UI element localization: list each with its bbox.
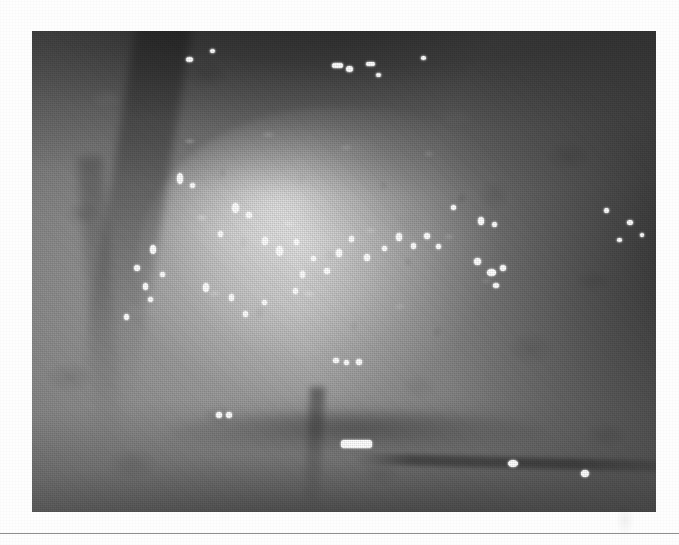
- specular-highlight: [143, 283, 148, 290]
- specular-highlight-group: [32, 31, 656, 512]
- specular-highlight: [210, 49, 215, 53]
- specular-highlight: [177, 173, 183, 184]
- specular-highlight: [344, 360, 349, 365]
- specular-highlight: [640, 233, 644, 237]
- specular-highlight: [451, 205, 456, 210]
- specular-highlight: [492, 222, 497, 227]
- specular-highlight: [436, 244, 441, 249]
- specular-highlight: [364, 254, 370, 261]
- page-divider-rule: [0, 533, 679, 534]
- specular-highlight: [581, 470, 589, 477]
- specular-highlight: [216, 412, 222, 418]
- specular-highlight: [617, 238, 622, 242]
- specular-highlight: [311, 256, 316, 261]
- specular-highlight: [424, 233, 430, 239]
- specular-highlight: [487, 269, 496, 276]
- specular-highlight: [246, 212, 252, 218]
- specular-highlight: [229, 294, 234, 301]
- specular-highlight: [604, 208, 609, 213]
- specular-highlight: [500, 265, 506, 271]
- specular-highlight: [218, 231, 223, 237]
- specular-highlight: [474, 258, 481, 265]
- specular-highlight: [276, 246, 283, 256]
- specular-highlight: [382, 246, 387, 251]
- specular-highlight: [124, 314, 129, 320]
- specular-highlight: [493, 283, 499, 288]
- specular-highlight: [333, 358, 339, 363]
- specular-highlight: [411, 243, 416, 249]
- specular-highlight: [148, 297, 153, 302]
- specular-highlight: [262, 237, 268, 245]
- specular-highlight: [366, 62, 375, 66]
- specular-highlight: [294, 239, 299, 245]
- specular-highlight: [160, 272, 165, 277]
- specular-highlight: [232, 203, 239, 213]
- specular-highlight: [300, 271, 305, 278]
- clinical-photograph: [32, 31, 656, 512]
- specular-highlight: [203, 283, 209, 292]
- specular-highlight: [346, 66, 353, 72]
- specular-highlight: [349, 236, 354, 242]
- specular-highlight: [478, 217, 484, 225]
- specular-highlight: [262, 300, 267, 305]
- specular-highlight: [332, 63, 343, 68]
- specular-highlight: [376, 73, 381, 77]
- specular-highlight: [396, 233, 402, 241]
- specular-highlight: [508, 460, 518, 467]
- specular-highlight: [190, 183, 195, 188]
- specular-highlight: [150, 245, 156, 254]
- specular-highlight: [336, 249, 342, 257]
- specular-highlight: [356, 359, 362, 365]
- specular-highlight: [186, 57, 193, 62]
- specular-highlight: [627, 220, 633, 225]
- specular-highlight: [226, 412, 232, 418]
- specular-highlight: [341, 440, 372, 448]
- specular-highlight: [243, 311, 248, 317]
- scanned-page: [0, 0, 679, 545]
- specular-highlight: [324, 268, 330, 274]
- specular-highlight: [421, 56, 426, 60]
- specular-highlight: [293, 288, 298, 294]
- specular-highlight: [134, 265, 140, 271]
